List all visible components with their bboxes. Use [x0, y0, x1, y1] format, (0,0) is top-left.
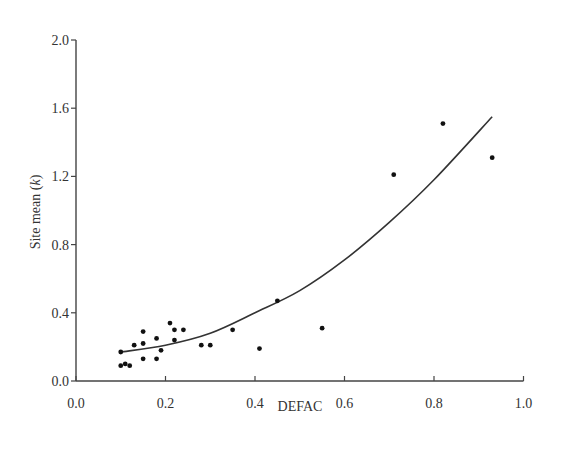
data-point [118, 350, 123, 355]
y-axis-title-prefix: Site mean ( [28, 185, 44, 249]
y-tick-label: 0.4 [52, 306, 70, 321]
data-point [275, 298, 280, 303]
data-point [127, 363, 132, 368]
data-point [320, 326, 325, 331]
data-point [441, 121, 446, 126]
data-point [257, 346, 262, 351]
data-point [391, 172, 396, 177]
x-axis-title: DEFAC [278, 399, 323, 414]
x-tick-label: 0.6 [336, 396, 354, 411]
x-tick-label: 0.2 [157, 396, 175, 411]
y-axis-title-suffix: ) [28, 174, 44, 179]
y-axis-ticks: 0.00.40.81.21.62.0 [52, 33, 77, 389]
x-tick-label: 0.0 [67, 396, 85, 411]
data-point [490, 155, 495, 160]
data-point [181, 327, 186, 332]
data-point [118, 363, 123, 368]
data-point [132, 343, 137, 348]
y-axis-title: Site mean (k) [28, 174, 44, 249]
x-tick-label: 0.8 [425, 396, 443, 411]
data-point [208, 343, 213, 348]
y-tick-label: 2.0 [52, 33, 70, 48]
data-point [154, 336, 159, 341]
data-point [141, 329, 146, 334]
data-point [159, 348, 164, 353]
data-point [230, 327, 235, 332]
data-points [118, 121, 494, 368]
data-point [154, 356, 159, 361]
y-tick-label: 1.6 [52, 101, 70, 116]
y-tick-label: 0.8 [52, 238, 70, 253]
data-point [172, 327, 177, 332]
data-point [141, 356, 146, 361]
data-point [172, 338, 177, 343]
y-tick-label: 1.2 [52, 169, 70, 184]
scatter-chart: 0.00.40.81.21.62.0 0.00.20.40.60.81.0 DE… [0, 0, 561, 450]
fitted-curve [121, 117, 492, 352]
x-tick-label: 1.0 [515, 396, 533, 411]
data-point [168, 321, 173, 326]
data-point [141, 341, 146, 346]
y-tick-label: 0.0 [52, 374, 70, 389]
x-tick-label: 0.4 [246, 396, 264, 411]
data-point [199, 343, 204, 348]
data-point [123, 362, 128, 367]
